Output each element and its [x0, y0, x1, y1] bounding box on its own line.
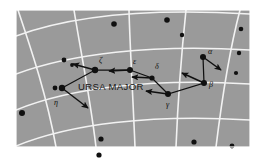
sky-map-canvas: ηζεδγβα URSA MAJOR — [0, 0, 266, 164]
field-star-dot — [96, 152, 101, 157]
star-dot-beta — [201, 80, 207, 86]
field-star-dot — [191, 139, 196, 144]
field-star-dot — [98, 136, 103, 141]
field-star-dot — [19, 110, 25, 116]
field-star-dot — [239, 27, 244, 32]
star-dot-eta — [59, 85, 65, 91]
star-dot-zeta — [92, 67, 98, 73]
star-dot-alpha — [200, 54, 206, 60]
field-star-dot — [237, 51, 241, 55]
star-dot-delta — [149, 75, 154, 80]
field-star-dot — [230, 144, 235, 149]
star-dot-epsilon — [127, 67, 133, 73]
proper-motion-arrow-delta — [132, 77, 152, 78]
field-star-dot — [53, 86, 58, 91]
star-label-beta: β — [208, 80, 213, 89]
constellation-name-label: URSA MAJOR — [78, 81, 144, 92]
field-star-dot — [62, 58, 67, 63]
field-star-dot — [234, 71, 238, 75]
star-label-delta: δ — [155, 62, 159, 71]
field-star-dot — [111, 21, 117, 27]
proper-motion-arrow-epsilon — [109, 70, 130, 71]
field-star-dot — [164, 17, 170, 23]
star-dot-gamma — [165, 91, 171, 97]
star-label-eta: η — [54, 98, 58, 107]
star-chart-figure: ηζεδγβα URSA MAJOR — [0, 0, 266, 164]
field-star-dot — [180, 33, 184, 37]
